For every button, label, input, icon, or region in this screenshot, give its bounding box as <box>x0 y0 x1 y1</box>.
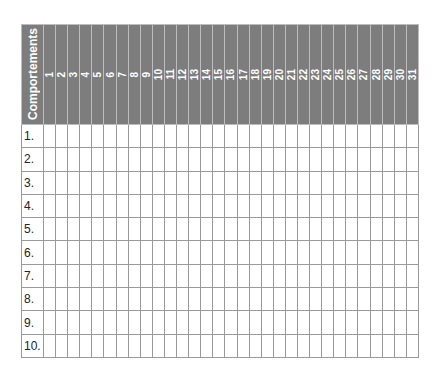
day-cell[interactable] <box>80 241 92 264</box>
day-cell[interactable] <box>225 334 237 357</box>
day-cell[interactable] <box>44 125 56 148</box>
day-cell[interactable] <box>358 334 370 357</box>
day-cell[interactable] <box>201 194 213 217</box>
day-cell[interactable] <box>44 311 56 334</box>
day-cell[interactable] <box>297 194 309 217</box>
day-cell[interactable] <box>56 171 68 194</box>
day-cell[interactable] <box>225 148 237 171</box>
day-cell[interactable] <box>382 125 394 148</box>
day-cell[interactable] <box>164 288 176 311</box>
day-cell[interactable] <box>152 288 164 311</box>
day-cell[interactable] <box>140 264 152 287</box>
day-cell[interactable] <box>68 241 80 264</box>
day-cell[interactable] <box>273 334 285 357</box>
day-cell[interactable] <box>237 334 249 357</box>
day-cell[interactable] <box>334 125 346 148</box>
day-cell[interactable] <box>358 125 370 148</box>
day-cell[interactable] <box>140 241 152 264</box>
day-cell[interactable] <box>322 288 334 311</box>
day-cell[interactable] <box>285 171 297 194</box>
day-cell[interactable] <box>225 311 237 334</box>
day-cell[interactable] <box>237 311 249 334</box>
day-cell[interactable] <box>189 218 201 241</box>
day-cell[interactable] <box>225 288 237 311</box>
day-cell[interactable] <box>80 288 92 311</box>
day-cell[interactable] <box>213 194 225 217</box>
day-cell[interactable] <box>358 311 370 334</box>
day-cell[interactable] <box>394 148 406 171</box>
day-cell[interactable] <box>346 194 358 217</box>
day-cell[interactable] <box>334 264 346 287</box>
day-cell[interactable] <box>297 125 309 148</box>
day-cell[interactable] <box>382 218 394 241</box>
day-cell[interactable] <box>140 171 152 194</box>
day-cell[interactable] <box>334 288 346 311</box>
day-cell[interactable] <box>189 288 201 311</box>
day-cell[interactable] <box>225 125 237 148</box>
day-cell[interactable] <box>92 218 104 241</box>
day-cell[interactable] <box>104 125 116 148</box>
day-cell[interactable] <box>310 311 322 334</box>
day-cell[interactable] <box>261 218 273 241</box>
day-cell[interactable] <box>152 194 164 217</box>
day-cell[interactable] <box>358 241 370 264</box>
day-cell[interactable] <box>285 218 297 241</box>
day-cell[interactable] <box>104 194 116 217</box>
day-cell[interactable] <box>322 218 334 241</box>
day-cell[interactable] <box>346 171 358 194</box>
day-cell[interactable] <box>177 334 189 357</box>
day-cell[interactable] <box>310 194 322 217</box>
day-cell[interactable] <box>177 218 189 241</box>
day-cell[interactable] <box>310 241 322 264</box>
day-cell[interactable] <box>164 148 176 171</box>
day-cell[interactable] <box>152 218 164 241</box>
day-cell[interactable] <box>92 148 104 171</box>
day-cell[interactable] <box>406 218 418 241</box>
day-cell[interactable] <box>310 125 322 148</box>
day-cell[interactable] <box>56 125 68 148</box>
day-cell[interactable] <box>80 334 92 357</box>
day-cell[interactable] <box>273 148 285 171</box>
day-cell[interactable] <box>273 194 285 217</box>
day-cell[interactable] <box>152 171 164 194</box>
day-cell[interactable] <box>249 125 261 148</box>
day-cell[interactable] <box>44 241 56 264</box>
day-cell[interactable] <box>128 264 140 287</box>
day-cell[interactable] <box>358 148 370 171</box>
day-cell[interactable] <box>116 171 128 194</box>
day-cell[interactable] <box>237 241 249 264</box>
day-cell[interactable] <box>370 241 382 264</box>
day-cell[interactable] <box>201 264 213 287</box>
day-cell[interactable] <box>68 334 80 357</box>
day-cell[interactable] <box>310 148 322 171</box>
day-cell[interactable] <box>56 311 68 334</box>
day-cell[interactable] <box>128 218 140 241</box>
day-cell[interactable] <box>116 125 128 148</box>
day-cell[interactable] <box>140 194 152 217</box>
day-cell[interactable] <box>201 311 213 334</box>
day-cell[interactable] <box>152 334 164 357</box>
day-cell[interactable] <box>213 334 225 357</box>
day-cell[interactable] <box>370 264 382 287</box>
day-cell[interactable] <box>273 218 285 241</box>
day-cell[interactable] <box>213 148 225 171</box>
day-cell[interactable] <box>177 241 189 264</box>
day-cell[interactable] <box>237 218 249 241</box>
day-cell[interactable] <box>201 148 213 171</box>
day-cell[interactable] <box>358 264 370 287</box>
day-cell[interactable] <box>152 264 164 287</box>
day-cell[interactable] <box>334 171 346 194</box>
day-cell[interactable] <box>370 125 382 148</box>
day-cell[interactable] <box>104 241 116 264</box>
day-cell[interactable] <box>334 194 346 217</box>
day-cell[interactable] <box>68 218 80 241</box>
day-cell[interactable] <box>370 171 382 194</box>
day-cell[interactable] <box>80 148 92 171</box>
day-cell[interactable] <box>92 288 104 311</box>
day-cell[interactable] <box>249 311 261 334</box>
day-cell[interactable] <box>80 171 92 194</box>
day-cell[interactable] <box>128 288 140 311</box>
day-cell[interactable] <box>394 218 406 241</box>
day-cell[interactable] <box>322 148 334 171</box>
day-cell[interactable] <box>261 311 273 334</box>
